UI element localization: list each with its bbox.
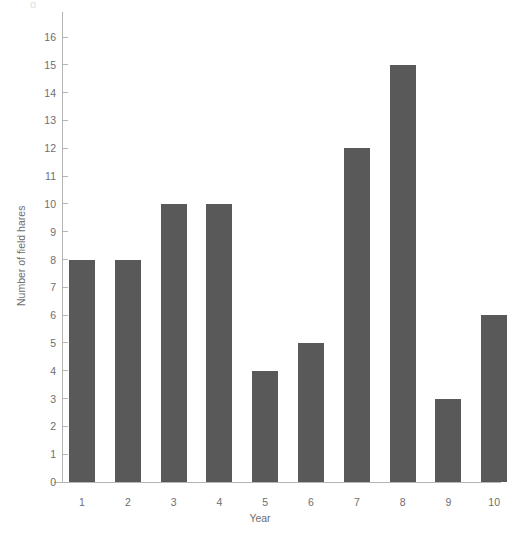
y-axis-tick-label-wrap: 15 [26,60,56,70]
x-axis-tick-label: 8 [400,496,406,508]
bar [161,204,187,482]
bar [252,371,278,482]
y-axis-tick [62,287,68,288]
y-axis-tick [62,120,68,121]
y-axis-tick [62,259,68,260]
y-axis-title-text: Number of field hares [15,206,27,306]
y-axis-tick [62,342,68,343]
x-axis-tick-label: 1 [79,496,85,508]
x-axis-tick-label: 4 [216,496,222,508]
bar [298,343,324,482]
y-axis-tick-label: 4 [26,366,56,376]
y-axis-tick [62,315,68,316]
y-axis-tick [62,37,68,38]
x-axis-tick-label-wrap: 2 [105,492,151,504]
y-axis-tick-label-wrap: 11 [26,171,56,181]
y-axis-tick-label-wrap: 6 [26,310,56,320]
y-axis-tick-label-wrap: 2 [26,421,56,431]
y-axis-tick-label: 9 [26,227,56,237]
y-axis-tick-label: 8 [26,255,56,265]
y-axis-tick-label-wrap: 12 [26,143,56,153]
y-axis-tick-label: 16 [26,32,56,42]
bar [69,260,95,483]
bar [481,315,507,482]
y-axis-tick-label: 11 [26,171,56,181]
y-axis-tick-label: 0 [26,477,56,487]
y-axis-tick-label-wrap: 9 [26,227,56,237]
y-axis-tick [62,203,68,204]
x-axis-tick-label: 2 [125,496,131,508]
x-axis-tick-label: 7 [354,496,360,508]
x-axis-tick-label-wrap: 5 [242,492,288,504]
x-axis-tick-label: 9 [445,496,451,508]
y-axis-tick-label: 1 [26,449,56,459]
x-axis-tick-label: 6 [308,496,314,508]
y-axis-tick-label-wrap: 3 [26,394,56,404]
x-axis-tick-label-wrap: 9 [425,492,471,504]
x-axis-tick-label-wrap: 3 [151,492,197,504]
y-axis-tick [62,482,68,483]
y-axis-tick-label-wrap: 7 [26,282,56,292]
y-axis-tick-label-wrap: 8 [26,255,56,265]
y-axis-tick [62,176,68,177]
y-axis-tick [62,92,68,93]
y-axis-tick-label-wrap: 16 [26,32,56,42]
y-axis-tick [62,231,68,232]
y-axis-tick-label: 13 [26,115,56,125]
bar-chart: g 012345678910111213141516 12345678910 N… [0,0,520,538]
y-axis-tick-label-wrap: 1 [26,449,56,459]
y-axis-tick [62,64,68,65]
y-axis-tick [62,148,68,149]
y-axis-tick [62,370,68,371]
y-axis-tick [62,426,68,427]
x-axis-tick-label-wrap: 8 [380,492,426,504]
y-axis-tick-label-wrap: 13 [26,115,56,125]
y-axis-tick-label: 5 [26,338,56,348]
y-axis-tick [62,398,68,399]
x-axis-line [54,482,501,483]
y-axis-tick-label-wrap: 10 [26,199,56,209]
bar [435,399,461,482]
y-axis-tick-label: 15 [26,60,56,70]
x-axis-tick-label: 10 [488,496,500,508]
y-axis-tick-label: 3 [26,394,56,404]
y-axis-tick-label-wrap: 5 [26,338,56,348]
y-axis-title: Number of field hares [2,176,18,306]
x-axis-tick-label: 3 [171,496,177,508]
x-axis-title: Year [0,512,520,524]
x-axis-tick-label-wrap: 4 [196,492,242,504]
y-axis-tick-label-wrap: 14 [26,88,56,98]
x-axis-tick-label-wrap: 6 [288,492,334,504]
y-axis-tick-label: 7 [26,282,56,292]
bar [115,260,141,483]
x-axis-tick-label-wrap: 7 [334,492,380,504]
bar [206,204,232,482]
y-axis-tick-label: 14 [26,88,56,98]
y-axis-line [62,12,63,483]
scan-artifact: g [30,0,44,8]
x-axis-tick-label: 5 [262,496,268,508]
y-axis-tick-label-wrap: 0 [26,477,56,487]
y-axis-tick-label: 12 [26,143,56,153]
y-axis-tick [62,454,68,455]
y-axis-tick-label-wrap: 4 [26,366,56,376]
y-axis-tick-label: 2 [26,421,56,431]
y-axis-tick-label: 10 [26,199,56,209]
x-axis-tick-label-wrap: 10 [471,492,517,504]
bar [344,148,370,482]
x-axis-tick-label-wrap: 1 [59,492,105,504]
y-axis-tick-label: 6 [26,310,56,320]
bar [390,65,416,482]
